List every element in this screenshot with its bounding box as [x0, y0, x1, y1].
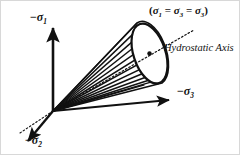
sigma-2-minus: −: [25, 133, 32, 147]
sigma-2-axis-label: −σ2: [25, 133, 42, 149]
equation-sigma-2-subscript: 3: [180, 11, 183, 18]
sigma-3-axis-label: −σ3: [177, 84, 194, 100]
equation-close-paren: ): [204, 4, 208, 16]
equation-sigma-1-subscript: 1: [159, 11, 162, 18]
cone-body: [53, 19, 174, 111]
sigma-2-subscript: 2: [38, 140, 42, 149]
sigma-1-subscript: 1: [43, 17, 47, 26]
sigma-1-axis-label: −σ1: [30, 10, 47, 26]
sigma-3-subscript: 3: [190, 91, 194, 100]
equation-equals-1: =: [165, 4, 171, 16]
hydrostatic-axis-center-dot: [147, 51, 151, 55]
equation-equals-2: =: [186, 4, 192, 16]
hydrostatic-condition-equation: (σ1 = σ3 = σ3): [149, 4, 208, 18]
stress-space-cone-figure: −σ1 −σ3 −σ2 (σ1 = σ3 = σ3) Hydrostatic A…: [0, 0, 240, 155]
hydrostatic-axis-label: Hydrostatic Axis: [164, 42, 234, 53]
sigma-3-minus: −: [177, 84, 184, 98]
sigma-1-minus: −: [30, 10, 37, 24]
